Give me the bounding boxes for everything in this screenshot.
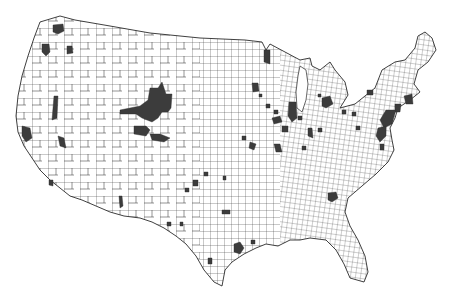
county-highlight-st-louis <box>282 126 288 132</box>
map-canvas <box>0 0 458 308</box>
county-highlight-eastern-wa <box>67 46 73 54</box>
county-highlight-san-antonio <box>167 222 171 226</box>
county-highlight-upstate-ny <box>367 90 373 95</box>
county-highlight-il-west <box>274 110 278 114</box>
county-highlight-dallas <box>222 210 230 214</box>
county-highlight-minneapolis <box>252 83 259 92</box>
county-highlight-south-texas <box>208 258 212 264</box>
county-highlight-mi-central <box>318 94 321 97</box>
county-highlight-southern-ca <box>49 180 53 186</box>
county-highlight-minnesota-ne <box>264 50 270 64</box>
county-highlight-kansas-city <box>242 136 246 140</box>
us-county-map <box>0 0 458 308</box>
county-highlight-indianapolis <box>308 128 313 138</box>
county-highlight-dc <box>380 144 384 150</box>
county-highlight-tx-north <box>185 188 189 192</box>
county-highlight-mn-south <box>259 94 262 97</box>
county-highlight-iowa <box>266 104 270 108</box>
county-highlight-louisiana <box>251 240 255 244</box>
county-highlight-west-virginia <box>356 126 360 130</box>
county-highlight-oklahoma-city <box>223 176 226 180</box>
county-highlight-ok-west <box>204 172 208 176</box>
county-highlight-indiana-n <box>298 116 302 120</box>
county-highlight-tx-panhandle <box>193 180 198 186</box>
county-highlight-austin <box>180 222 183 226</box>
county-highlight-pennsylvania-w <box>342 110 346 114</box>
county-highlight-pennsylvania-c <box>352 112 356 116</box>
county-highlight-kentucky <box>302 146 306 150</box>
county-highlight-ohio <box>318 128 322 132</box>
